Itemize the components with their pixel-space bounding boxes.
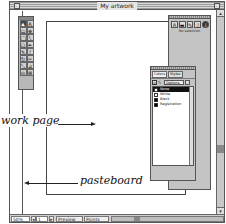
options-dropdown[interactable]: Options ▾: [164, 80, 184, 85]
close-box[interactable]: [14, 3, 20, 9]
trace-tool-icon[interactable]: ◎: [20, 69, 27, 76]
color-name: Registration: [160, 102, 181, 107]
toolbox-panel: ▲A▭⊕◯╲⬠✒✎ℐ↻✂⤡⊿◎⊞: [18, 16, 34, 90]
document-window: My artwork ▲A▭⊕◯╲⬠✒✎ℐ↻✂⤡⊿◎⊞ A▬✎▯i No sel…: [9, 1, 225, 223]
color-list: NoneWhiteBlackRegistration: [152, 86, 194, 166]
window-title: My artwork: [97, 2, 137, 10]
rectangle-tool-icon[interactable]: ▭: [20, 27, 27, 34]
color-chip: [154, 103, 158, 107]
bezigon-tool-icon[interactable]: ℐ: [27, 48, 34, 55]
zoom-box[interactable]: [214, 3, 220, 9]
tab-colors[interactable]: Colors: [152, 71, 167, 78]
status-bar: 50% ◂ 1 ▸ Preview Points: [10, 214, 224, 222]
info-inspector-icon[interactable]: i: [202, 21, 209, 28]
pencil-icon[interactable]: ✎: [158, 80, 163, 85]
color-chip: [154, 93, 158, 97]
color-mixer-button[interactable]: [185, 80, 190, 85]
inspector-tabs: A▬✎▯i: [169, 19, 210, 28]
knife-tool-icon[interactable]: ✂: [27, 55, 34, 62]
work-page-label: work page: [1, 114, 60, 127]
scroll-up-arrow-icon[interactable]: ▴: [217, 10, 224, 17]
ellipse-tool-icon[interactable]: ◯: [20, 34, 27, 41]
hand-tool-icon[interactable]: ⊞: [27, 69, 34, 76]
color-list-scrollbar[interactable]: [189, 87, 193, 165]
view-mode-dropdown[interactable]: Preview: [56, 216, 83, 222]
text-tool-icon[interactable]: A: [27, 20, 34, 27]
color-list-panel: Colors Styles ⊘ ✎ Options ▾ NoneWhiteBla…: [150, 66, 196, 181]
units-dropdown[interactable]: Points: [84, 216, 109, 222]
skew-tool-icon[interactable]: ⊿: [27, 62, 34, 69]
tab-styles[interactable]: Styles: [168, 71, 183, 78]
next-page-button[interactable]: ▸: [49, 216, 54, 222]
color-panel-tabs: Colors Styles: [151, 70, 195, 78]
color-panel-toolbar: ⊘ ✎ Options ▾: [151, 78, 195, 86]
scroll-down-arrow-icon[interactable]: ▾: [217, 207, 224, 214]
object-inspector-icon[interactable]: A: [171, 21, 178, 28]
selection-status: No selection: [169, 29, 210, 33]
rotate-tool-icon[interactable]: ↻: [20, 55, 27, 62]
scale-tool-icon[interactable]: ⤡: [20, 62, 27, 69]
none-swatch-icon[interactable]: ⊘: [152, 80, 157, 85]
stroke-inspector-icon[interactable]: ✎: [187, 21, 194, 28]
color-list-item[interactable]: Registration: [153, 102, 193, 107]
color-chip: [154, 98, 158, 102]
vertical-scrollbar[interactable]: ▴ ▾: [216, 10, 224, 214]
pasteboard-arrow-icon: [28, 183, 78, 184]
page-number-field[interactable]: 1: [36, 216, 48, 222]
tool-grid: ▲A▭⊕◯╲⬠✒✎ℐ↻✂⤡⊿◎⊞: [19, 20, 33, 76]
line-tool-icon[interactable]: ╲: [27, 34, 34, 41]
horizontal-scroll-thumb[interactable]: [134, 217, 140, 221]
work-page-arrow-icon: [58, 124, 92, 125]
vertical-scroll-thumb[interactable]: [217, 145, 224, 153]
pen-tool-icon[interactable]: ✒: [27, 41, 34, 48]
pasteboard-label: pasteboard: [80, 174, 143, 187]
freehand-tool-icon[interactable]: ✎: [20, 48, 27, 55]
color-chip: [154, 88, 158, 92]
horizontal-scrollbar[interactable]: [111, 216, 224, 222]
polygon-tool-icon[interactable]: ⬠: [20, 41, 27, 48]
document-inspector-icon[interactable]: ▯: [194, 21, 201, 28]
zoom-tool-icon[interactable]: ⊕: [27, 27, 34, 34]
fill-inspector-icon[interactable]: ▬: [179, 21, 186, 28]
pointer-tool-icon[interactable]: ▲: [20, 20, 27, 27]
zoom-level-field[interactable]: 50%: [11, 216, 30, 222]
title-bar[interactable]: My artwork: [10, 2, 224, 10]
